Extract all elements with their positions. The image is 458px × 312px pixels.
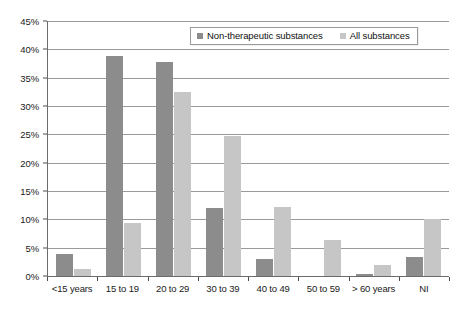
bar [156,62,173,276]
bar-group [349,21,399,276]
x-axis-tick-label: 20 to 29 [148,283,198,309]
x-axis-tick-mark [399,277,400,281]
x-axis-tick-label: NI [399,283,449,309]
x-axis-labels: <15 years15 to 1920 to 2930 to 3940 to 4… [47,283,449,309]
y-axis-tick-label: 5% [25,242,39,253]
x-axis-tick-label: 40 to 49 [248,283,298,309]
bar [374,265,391,276]
bars-layer [48,21,449,276]
y-axis-tick-label: 0% [25,271,39,282]
bar [424,219,441,276]
y-axis-tick-label: 25% [20,129,39,140]
x-axis-tick-label: 15 to 19 [97,283,147,309]
x-axis-tick-label: 50 to 59 [298,283,348,309]
bar [106,56,123,276]
y-axis-tick-label: 35% [20,72,39,83]
bar-group [48,21,98,276]
bar-group [399,21,449,276]
bar [274,207,291,276]
x-axis: <15 years15 to 1920 to 2930 to 3940 to 4… [47,277,449,311]
legend-item: All substances [340,30,410,41]
bar-group [249,21,299,276]
bar [174,92,191,276]
y-axis-tick-label: 10% [20,214,39,225]
y-axis: 0%5%10%15%20%25%30%35%40%45% [0,21,47,276]
legend-swatch-icon [340,33,346,39]
legend-swatch-icon [197,33,203,39]
x-axis-tick-mark [97,277,98,281]
y-axis-tick-label: 40% [20,44,39,55]
bar-group [148,21,198,276]
x-axis-tickmarks [47,277,449,282]
y-axis-tick-label: 15% [20,186,39,197]
legend-item: Non-therapeutic substances [197,30,323,41]
bar-chart: 0%5%10%15%20%25%30%35%40%45% <15 years15… [0,0,458,312]
x-axis-tick-label: <15 years [47,283,97,309]
bar [256,259,273,276]
bar [206,208,223,276]
bar [124,223,141,276]
chart-legend: Non-therapeutic substancesAll substances [190,27,418,45]
bar-group [299,21,349,276]
x-axis-tick-mark [148,277,149,281]
legend-label: All substances [350,30,410,41]
x-axis-tick-mark [298,277,299,281]
x-axis-tick-label: > 60 years [349,283,399,309]
y-axis-tick-label: 20% [20,157,39,168]
x-axis-tick-label: 30 to 39 [198,283,248,309]
bar [406,257,423,276]
bar-group [198,21,248,276]
x-axis-tick-mark [198,277,199,281]
bar [224,136,241,276]
x-axis-tick-mark [449,277,450,281]
bar [74,269,91,276]
x-axis-tick-mark [349,277,350,281]
y-axis-tick-label: 30% [20,101,39,112]
bar [356,274,373,276]
legend-label: Non-therapeutic substances [207,30,323,41]
bar [56,254,73,276]
plot-area [47,21,449,277]
x-axis-tick-mark [47,277,48,281]
y-axis-tick-label: 45% [20,16,39,27]
bar [324,240,341,276]
bar-group [98,21,148,276]
x-axis-tick-mark [248,277,249,281]
